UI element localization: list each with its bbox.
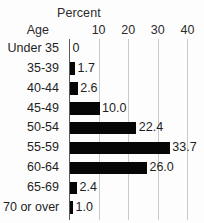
value-axis-tick-label: 10 bbox=[92, 23, 106, 37]
bar-value-label: 2.6 bbox=[78, 79, 98, 99]
bar-value-label: 10.0 bbox=[100, 99, 127, 119]
value-axis-tick-label: 30 bbox=[151, 23, 165, 37]
value-axis-tick-label: 20 bbox=[121, 23, 135, 37]
bar bbox=[70, 182, 77, 194]
value-axis-tick-labels: 10203040 bbox=[0, 23, 204, 39]
bar bbox=[70, 122, 136, 134]
category-label: 60-64 bbox=[0, 158, 63, 178]
value-axis-tick-label: 40 bbox=[180, 23, 194, 37]
bar-row: 70 or over1.0 bbox=[0, 198, 204, 218]
bar-value-label: 22.4 bbox=[136, 118, 163, 138]
bar-row: 50-5422.4 bbox=[0, 118, 204, 138]
bar-value-label: 0 bbox=[70, 39, 79, 59]
bar-value-label: 1.0 bbox=[73, 198, 93, 218]
chart-title: Percent bbox=[57, 6, 101, 20]
bar-row: 35-391.7 bbox=[0, 59, 204, 79]
bar-rows: Under 35035-391.740-442.645-4910.050-542… bbox=[0, 39, 204, 220]
bar-value-label: 1.7 bbox=[75, 59, 95, 79]
bar bbox=[70, 82, 78, 94]
category-label: 35-39 bbox=[0, 59, 63, 79]
bar-row: 45-4910.0 bbox=[0, 99, 204, 119]
bar-value-label: 26.0 bbox=[147, 158, 174, 178]
bar-value-label: 2.4 bbox=[77, 178, 97, 198]
bar-chart: Percent Age 10203040 Under 35035-391.740… bbox=[0, 0, 204, 223]
bar bbox=[70, 142, 170, 154]
category-label: 70 or over bbox=[0, 198, 67, 218]
bar-row: 60-6426.0 bbox=[0, 158, 204, 178]
category-label: 45-49 bbox=[0, 99, 63, 119]
bar-row: Under 350 bbox=[0, 39, 204, 59]
bar-row: 65-692.4 bbox=[0, 178, 204, 198]
category-label: 40-44 bbox=[0, 79, 63, 99]
category-label: Under 35 bbox=[0, 39, 63, 59]
bar-value-label: 33.7 bbox=[170, 138, 197, 158]
category-label: 50-54 bbox=[0, 118, 63, 138]
category-label: 55-59 bbox=[0, 138, 63, 158]
category-label: 65-69 bbox=[0, 178, 63, 198]
bar bbox=[70, 102, 100, 114]
bar bbox=[70, 162, 147, 174]
bar-row: 40-442.6 bbox=[0, 79, 204, 99]
bar-row: 55-5933.7 bbox=[0, 138, 204, 158]
